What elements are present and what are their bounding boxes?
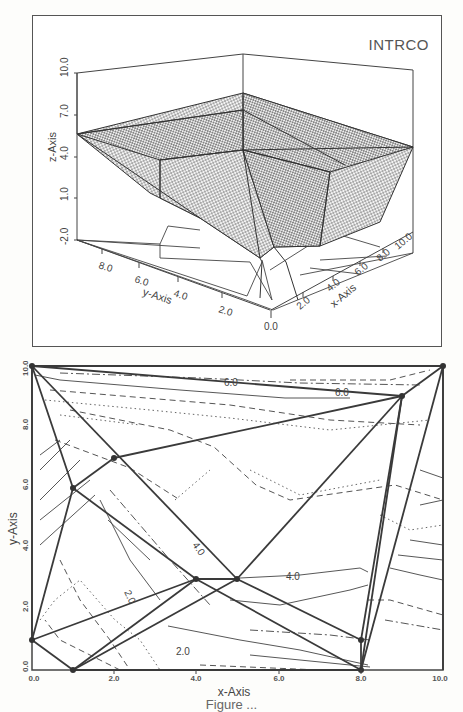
contour-y-axis-label: y-Axis: [6, 512, 20, 545]
svg-text:0.0: 0.0: [264, 321, 278, 332]
svg-text:4.0: 4.0: [286, 571, 300, 582]
svg-text:2.0: 2.0: [217, 303, 234, 318]
svg-text:2.0: 2.0: [21, 600, 30, 612]
svg-text:10.0: 10.0: [21, 360, 30, 376]
z-axis-label: z-Axis: [46, 132, 58, 162]
svg-text:4.0: 4.0: [172, 287, 189, 302]
svg-text:10.0: 10.0: [432, 674, 448, 683]
svg-text:10.0: 10.0: [59, 57, 70, 77]
svg-text:2.0: 2.0: [176, 646, 190, 657]
z-axis: [74, 73, 77, 240]
svg-text:8.0: 8.0: [97, 259, 114, 274]
figure-caption: Figure ...: [0, 697, 463, 712]
svg-text:6.0: 6.0: [224, 377, 238, 388]
y-axis-3d: [77, 240, 270, 310]
svg-text:4.0: 4.0: [190, 674, 202, 683]
svg-text:8.0: 8.0: [21, 418, 30, 430]
svg-text:6.0: 6.0: [21, 478, 30, 490]
svg-text:0.0: 0.0: [21, 660, 30, 672]
contour-x-tick-labels: 0.0 2.0 4.0 6.0 8.0 10.0: [28, 674, 448, 683]
svg-text:2.0: 2.0: [108, 674, 120, 683]
contour-y-tick-labels: 0.0 2.0 4.0 6.0 8.0 10.0: [21, 360, 30, 672]
svg-text:6.0: 6.0: [273, 674, 285, 683]
svg-text:0.0: 0.0: [28, 674, 40, 683]
svg-text:8.0: 8.0: [355, 674, 367, 683]
svg-text:-2.0: -2.0: [59, 227, 70, 245]
svg-text:4.0: 4.0: [21, 539, 30, 551]
y-axis-3d-label: y-Axis: [141, 285, 174, 306]
svg-text:8.0: 8.0: [374, 246, 392, 264]
svg-text:6.0: 6.0: [352, 260, 370, 278]
hatched-surface: [77, 93, 413, 258]
svg-text:7.0: 7.0: [59, 104, 70, 118]
z-axis-ticks: 10.0 7.0 4.0 1.0 -2.0: [59, 57, 70, 245]
svg-text:1.0: 1.0: [59, 187, 70, 201]
svg-text:6.0: 6.0: [335, 387, 349, 398]
svg-text:4.0: 4.0: [59, 146, 70, 160]
contour-plot: 6.0 6.0 4.0 4.0 2.0 2.0 0.0 2.0 4.0 6.0 …: [6, 360, 448, 699]
